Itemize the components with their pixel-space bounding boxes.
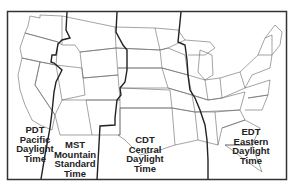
zone-line2: Time (50, 169, 100, 179)
zone-label-central: CDT Central Daylight Time (122, 135, 168, 173)
zone-line2: Time (228, 156, 274, 166)
zone-label-mountain: MST Mountain Standard Time (50, 140, 100, 178)
zone-label-eastern: EDT Eastern Daylight Time (228, 127, 274, 165)
zone-line2: Time (122, 164, 168, 174)
time-zone-map: PDT Pacific Daylight Time MST Mountain S… (0, 0, 290, 191)
